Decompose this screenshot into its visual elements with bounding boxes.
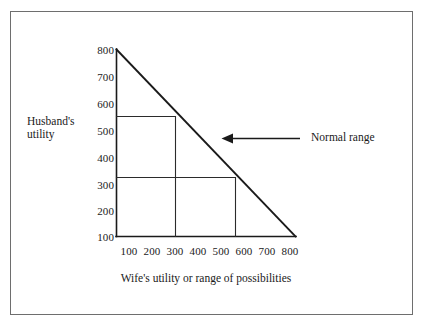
y-tick-label-200: 200 <box>84 206 114 217</box>
y-tick-label-300: 300 <box>84 180 114 191</box>
y-axis-title-line-1: Husband's <box>27 115 89 128</box>
y-tick-label-700: 700 <box>84 72 114 83</box>
y-tick-label-600: 600 <box>84 99 114 110</box>
x-axis-title: Wife's utility or range of possibilities <box>86 272 326 285</box>
y-axis-title-line-2: utility <box>27 128 89 141</box>
y-tick-label-400: 400 <box>84 153 114 164</box>
y-axis-title: Husband's utility <box>27 115 89 140</box>
normal-range-arrow-head <box>222 134 234 144</box>
y-tick-label-100: 100 <box>84 232 114 243</box>
utility-frontier-line <box>117 50 296 237</box>
x-tick-label-800: 800 <box>277 246 303 257</box>
y-tick-label-800: 800 <box>84 45 114 56</box>
normal-range-annotation-label: Normal range <box>311 131 375 144</box>
inner-rectangle-upper <box>117 117 176 237</box>
